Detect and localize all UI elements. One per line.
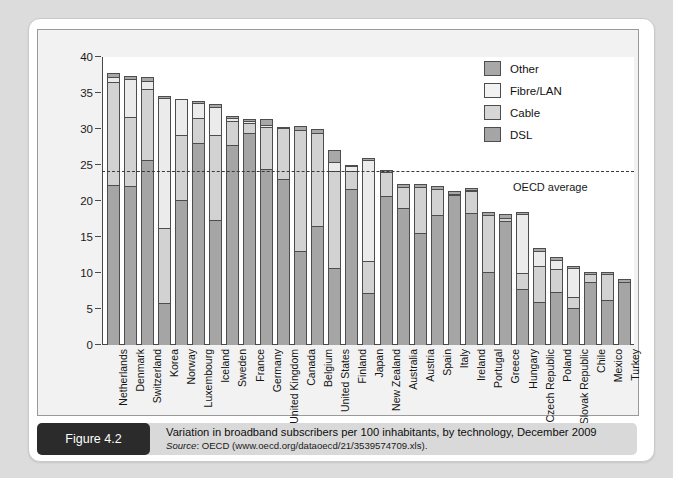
stacked-bar[interactable] xyxy=(380,170,393,344)
bar-column xyxy=(414,57,427,344)
x-axis-label: United Kingdom xyxy=(277,347,290,425)
stacked-bar[interactable] xyxy=(482,212,495,344)
x-axis-label: Denmark xyxy=(123,347,136,425)
y-axis-tick-mark xyxy=(95,344,101,345)
figure-number-text: Figure 4.2 xyxy=(65,432,121,446)
bar-segment-cable xyxy=(312,133,323,227)
stacked-bar[interactable] xyxy=(209,104,222,344)
legend-swatch-fibre xyxy=(484,83,501,98)
legend-swatch-cable xyxy=(484,105,501,120)
bar-segment-dsl xyxy=(346,189,357,345)
bar-segment-fibre xyxy=(176,100,187,135)
bar-segment-dsl xyxy=(619,282,630,345)
stacked-bar[interactable] xyxy=(243,119,256,344)
page-background: 0510152025303540 OECD average Netherland… xyxy=(0,0,673,478)
bar-segment-dsl xyxy=(517,289,528,345)
stacked-bar[interactable] xyxy=(192,101,205,344)
stacked-bar[interactable] xyxy=(311,129,324,344)
y-axis-tick: 20 xyxy=(40,195,102,207)
stacked-bar[interactable] xyxy=(362,158,375,344)
x-axis-label: Poland xyxy=(550,347,563,425)
bar-segment-dsl xyxy=(176,200,187,345)
bar-segment-dsl xyxy=(125,186,136,345)
stacked-bar[interactable] xyxy=(107,73,120,344)
y-axis-tick-mark xyxy=(95,308,101,309)
stacked-bar[interactable] xyxy=(584,272,597,344)
bar-column xyxy=(226,57,239,344)
bar-segment-dsl xyxy=(398,208,409,345)
stacked-bar[interactable] xyxy=(158,96,171,344)
stacked-bar[interactable] xyxy=(124,76,137,344)
stacked-bar[interactable] xyxy=(226,116,239,344)
bar-segment-dsl xyxy=(142,160,153,345)
legend-label: Fibre/LAN xyxy=(510,85,562,97)
bar-segment-cable xyxy=(295,130,306,251)
bar-segment-dsl xyxy=(261,169,272,345)
legend-label: DSL xyxy=(510,129,532,141)
stacked-bar[interactable] xyxy=(516,212,529,344)
bar-segment-dsl xyxy=(415,233,426,345)
x-axis-label: Sweden xyxy=(225,347,238,425)
x-axis-label: Ireland xyxy=(464,347,477,425)
bar-segment-dsl xyxy=(210,220,221,345)
bar-segment-cable xyxy=(261,127,272,169)
stacked-bar[interactable] xyxy=(431,186,444,344)
x-axis-label: Belgium xyxy=(311,347,324,425)
stacked-bar[interactable] xyxy=(328,150,341,344)
stacked-bar[interactable] xyxy=(260,119,273,344)
bar-column xyxy=(397,57,410,344)
bar-column xyxy=(362,57,375,344)
bar-segment-cable xyxy=(466,191,477,213)
stacked-bar[interactable] xyxy=(618,279,631,344)
figure-caption: Figure 4.2 Variation in broadband subscr… xyxy=(37,423,637,455)
x-axis-label: Italy xyxy=(447,347,460,425)
stacked-bar[interactable] xyxy=(345,165,358,344)
legend-item[interactable]: Fibre/LAN xyxy=(484,83,634,98)
bar-segment-fibre xyxy=(551,260,562,269)
stacked-bar[interactable] xyxy=(448,191,461,344)
bar-segment-cable xyxy=(551,269,562,292)
y-axis-tick: 5 xyxy=(40,303,102,315)
bar-segment-dsl xyxy=(534,302,545,345)
stacked-bar[interactable] xyxy=(414,184,427,344)
bar-column xyxy=(380,57,393,344)
bar-segment-cable xyxy=(363,261,374,293)
x-axis-label: United States xyxy=(328,347,341,425)
stacked-bar[interactable] xyxy=(550,257,563,344)
x-axis-label: Norway xyxy=(174,347,187,425)
bar-segment-cable xyxy=(210,135,221,220)
bar-segment-cable xyxy=(142,89,153,160)
legend-item[interactable]: Cable xyxy=(484,105,634,120)
stacked-bar[interactable] xyxy=(141,77,154,344)
x-axis-labels: NetherlandsDenmarkSwitzerlandKoreaNorway… xyxy=(102,347,634,425)
legend-label: Other xyxy=(510,63,539,75)
stacked-bar[interactable] xyxy=(397,184,410,344)
legend-swatch-dsl xyxy=(484,127,501,142)
y-axis-tick: 15 xyxy=(40,231,102,243)
stacked-bar[interactable] xyxy=(533,248,546,344)
stacked-bar[interactable] xyxy=(294,126,307,344)
bar-segment-cable xyxy=(415,187,426,233)
bar-segment-fibre xyxy=(159,98,170,228)
stacked-bar[interactable] xyxy=(499,214,512,344)
stacked-bar[interactable] xyxy=(601,272,614,344)
stacked-bar[interactable] xyxy=(175,99,188,344)
caption-source: Source: OECD (www.oecd.org/dataoecd/21/3… xyxy=(166,440,597,453)
bar-segment-cable xyxy=(398,187,409,209)
bar-segment-dsl xyxy=(500,221,511,345)
stacked-bar[interactable] xyxy=(277,127,290,344)
bar-column xyxy=(243,57,256,344)
bar-column xyxy=(141,57,154,344)
legend-item[interactable]: Other xyxy=(484,61,634,76)
y-axis-tick: 30 xyxy=(40,123,102,135)
legend-item[interactable]: DSL xyxy=(484,127,634,142)
stacked-bar[interactable] xyxy=(465,188,478,344)
bar-segment-fibre xyxy=(125,79,136,118)
bar-segment-dsl xyxy=(227,145,238,345)
bar-column xyxy=(448,57,461,344)
bar-column xyxy=(192,57,205,344)
bar-segment-cable xyxy=(381,172,392,196)
stacked-bar[interactable] xyxy=(567,266,580,344)
legend-label: Cable xyxy=(510,107,540,119)
x-axis-label: Austria xyxy=(413,347,426,425)
